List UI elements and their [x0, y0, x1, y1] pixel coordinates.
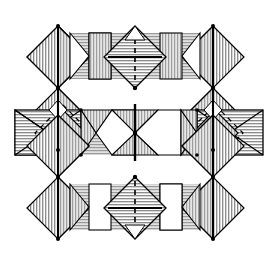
node-dot — [79, 108, 83, 112]
node-dot — [79, 153, 83, 157]
node-dot — [211, 237, 215, 241]
node-dot — [56, 148, 60, 152]
node-dot — [211, 86, 215, 90]
node-dot — [195, 108, 199, 112]
node-dot — [133, 175, 137, 179]
node-dot — [133, 86, 137, 90]
node-dot — [195, 153, 199, 157]
node-dot — [211, 175, 215, 179]
node-dot — [56, 24, 60, 28]
node-dot — [211, 148, 215, 152]
node-dot — [211, 24, 215, 28]
crystal-structure-figure — [0, 0, 277, 260]
node-dot — [56, 175, 60, 179]
node-dot — [56, 86, 60, 90]
node-dot — [56, 237, 60, 241]
node-dot — [133, 131, 137, 135]
